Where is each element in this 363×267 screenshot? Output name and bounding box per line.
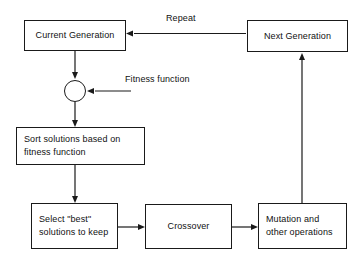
- node-mutation-line-0: Mutation and: [266, 213, 319, 226]
- node-next-generation-line-0: Next Generation: [264, 30, 331, 43]
- node-merge-point[interactable]: [64, 80, 86, 102]
- node-mutation[interactable]: Mutation and other operations: [258, 203, 347, 249]
- edge-fitness-into-merge: [87, 88, 131, 94]
- node-mutation-line-1: other operations: [266, 226, 333, 239]
- edge-crossover-to-mutation: [232, 224, 258, 230]
- edge-select-to-crossover: [118, 224, 145, 230]
- edge-mutation-to-next: [299, 53, 305, 203]
- flowchart-canvas: Current Generation Next Generation Sort …: [0, 0, 363, 267]
- node-sort-solutions-line-0: Sort solutions based on: [24, 133, 120, 146]
- node-sort-solutions[interactable]: Sort solutions based on fitness function: [16, 127, 145, 165]
- node-select-best[interactable]: Select "best" solutions to keep: [31, 203, 118, 249]
- edge-current-to-merge: [72, 51, 78, 79]
- node-next-generation[interactable]: Next Generation: [247, 20, 348, 52]
- node-current-generation[interactable]: Current Generation: [24, 20, 126, 51]
- edge-next-to-current: [126, 31, 246, 37]
- node-crossover[interactable]: Crossover: [145, 204, 232, 249]
- node-sort-solutions-line-1: fitness function: [24, 146, 86, 159]
- node-current-generation-line-0: Current Generation: [36, 29, 115, 42]
- node-select-best-line-1: solutions to keep: [39, 226, 108, 239]
- edge-merge-to-sort: [72, 102, 78, 127]
- edge-label-fitness-function: Fitness function: [125, 73, 190, 85]
- edge-sort-to-select: [72, 165, 78, 203]
- edge-label-repeat: Repeat: [166, 12, 196, 24]
- node-crossover-line-0: Crossover: [168, 220, 210, 233]
- node-select-best-line-0: Select "best": [39, 213, 91, 226]
